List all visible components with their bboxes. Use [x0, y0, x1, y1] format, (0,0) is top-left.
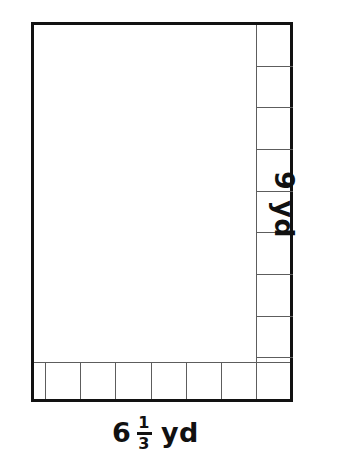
- fraction: 1 3: [136, 415, 152, 452]
- figure-stage: 6 1 3 yd 9 yd: [0, 0, 339, 475]
- bottom-unit-cell: [222, 363, 257, 399]
- fraction-denominator: 3: [136, 435, 152, 452]
- bottom-unit-cell: [187, 363, 222, 399]
- bottom-unit-cell: [81, 363, 116, 399]
- right-unit-cell: [257, 233, 293, 275]
- right-unit-cell: [257, 108, 293, 150]
- mixed-number: 6 1 3 yd: [112, 414, 199, 451]
- height-label: 9 yd: [269, 171, 300, 238]
- fraction-numerator: 1: [136, 415, 152, 432]
- bottom-unit-cell: [116, 363, 151, 399]
- right-unit-cell: [257, 67, 293, 109]
- width-label: 6 1 3 yd: [0, 414, 311, 451]
- right-unit-cell: [257, 275, 293, 317]
- whole-number-part: 6: [112, 419, 131, 446]
- right-unit-cell: [257, 25, 293, 67]
- bottom-unit-row: [34, 362, 290, 399]
- rectangle-outline: [31, 22, 293, 402]
- bottom-unit-cell: [46, 363, 81, 399]
- bottom-unit-cell-partial: [34, 363, 46, 399]
- right-unit-cell: [257, 317, 293, 359]
- bottom-unit-cell: [152, 363, 187, 399]
- width-unit: yd: [161, 419, 199, 446]
